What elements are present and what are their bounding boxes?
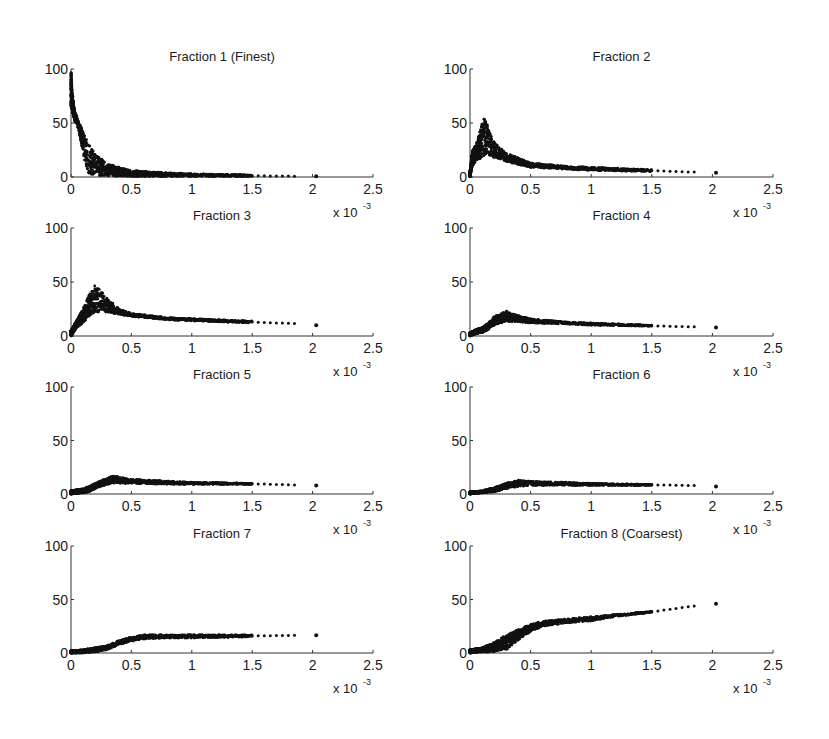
subplot-5: Fraction 505010000.511.522.5x 10-3: [45, 367, 383, 537]
subplot-grid: Fraction 1 (Finest)05010000.511.522.5x 1…: [0, 0, 829, 739]
x-multiplier-exponent: -3: [363, 677, 371, 687]
x-tick-label: 1: [188, 498, 196, 514]
x-tick-label: 0.5: [521, 657, 541, 673]
subplot-title: Fraction 8 (Coarsest): [560, 526, 682, 541]
x-tick-label: 2.5: [763, 340, 783, 356]
x-tick-label: 1: [188, 340, 196, 356]
x-tick-label: 0.5: [122, 340, 142, 356]
subplot-7: Fraction 705010000.511.522.5x 10-3: [45, 526, 383, 696]
x-tick-label: 0: [466, 498, 474, 514]
subplot-title: Fraction 1 (Finest): [169, 49, 274, 64]
y-tick-label: 50: [52, 433, 68, 449]
y-tick-label: 50: [451, 274, 467, 290]
x-tick-label: 0.5: [122, 181, 142, 197]
y-tick-label: 100: [444, 379, 468, 395]
x-multiplier-exponent: -3: [763, 360, 771, 370]
x-tick-label: 0.5: [521, 181, 541, 197]
subplot-title: Fraction 3: [193, 208, 251, 223]
y-tick-label: 50: [451, 592, 467, 608]
y-tick-label: 50: [52, 592, 68, 608]
y-tick-label: 100: [444, 538, 468, 554]
x-tick-label: 1.5: [642, 498, 662, 514]
x-tick-label: 0: [67, 657, 75, 673]
x-tick-label: 1: [188, 657, 196, 673]
x-tick-label: 1.5: [242, 340, 262, 356]
x-tick-label: 2: [709, 657, 717, 673]
x-tick-label: 0.5: [521, 498, 541, 514]
x-tick-label: 0.5: [122, 498, 142, 514]
x-multiplier-exponent: -3: [363, 518, 371, 528]
subplot-4: Fraction 405010000.511.522.5x 10-3: [444, 208, 783, 379]
subplot-title: Fraction 4: [593, 208, 651, 223]
x-tick-label: 2.5: [363, 181, 383, 197]
x-tick-label: 2.5: [763, 181, 783, 197]
x-multiplier-label: x 10: [333, 205, 358, 220]
subplot-title: Fraction 2: [593, 49, 651, 64]
scatter-points: [469, 118, 718, 178]
x-tick-label: 0: [466, 340, 474, 356]
x-tick-label: 2.5: [363, 498, 383, 514]
x-tick-label: 1: [587, 340, 595, 356]
x-tick-label: 0: [67, 498, 75, 514]
subplot-1: Fraction 1 (Finest)05010000.511.522.5x 1…: [45, 49, 383, 220]
subplot-title: Fraction 7: [193, 526, 251, 541]
x-tick-label: 2.5: [763, 657, 783, 673]
x-tick-label: 2.5: [363, 657, 383, 673]
x-tick-label: 2: [709, 498, 717, 514]
x-tick-label: 0: [67, 181, 75, 197]
x-tick-label: 2: [309, 181, 317, 197]
figure: Fraction 1 (Finest)05010000.511.522.5x 1…: [0, 0, 829, 739]
x-tick-label: 1.5: [642, 181, 662, 197]
x-multiplier-label: x 10: [333, 681, 358, 696]
x-tick-label: 1.5: [642, 657, 662, 673]
y-tick-label: 50: [451, 433, 467, 449]
y-tick-label: 50: [52, 274, 68, 290]
scatter-points: [469, 602, 718, 655]
x-tick-label: 1.5: [242, 181, 262, 197]
subplot-2: Fraction 205010000.511.522.5x 10-3: [444, 49, 783, 220]
x-tick-label: 0: [466, 657, 474, 673]
x-tick-label: 0.5: [122, 657, 142, 673]
x-tick-label: 0: [67, 340, 75, 356]
scatter-points: [70, 475, 319, 496]
y-tick-label: 100: [45, 220, 69, 236]
subplot-3: Fraction 305010000.511.522.5x 10-3: [45, 208, 383, 379]
x-tick-label: 1.5: [242, 498, 262, 514]
x-tick-label: 2: [309, 340, 317, 356]
x-tick-label: 1: [188, 181, 196, 197]
x-tick-label: 2: [309, 498, 317, 514]
scatter-points: [469, 310, 718, 337]
x-tick-label: 2.5: [763, 498, 783, 514]
x-multiplier-label: x 10: [733, 364, 758, 379]
x-multiplier-label: x 10: [733, 205, 758, 220]
y-tick-label: 50: [52, 115, 68, 131]
x-tick-label: 0: [466, 181, 474, 197]
x-multiplier-label: x 10: [733, 681, 758, 696]
y-tick-label: 100: [45, 61, 69, 77]
subplot-title: Fraction 6: [593, 367, 651, 382]
x-tick-label: 1.5: [642, 340, 662, 356]
scatter-points: [70, 71, 319, 178]
x-multiplier-label: x 10: [333, 522, 358, 537]
x-tick-label: 2: [309, 657, 317, 673]
x-multiplier-exponent: -3: [363, 360, 371, 370]
scatter-points: [70, 633, 319, 654]
subplot-title: Fraction 5: [193, 367, 251, 382]
x-tick-label: 2: [709, 181, 717, 197]
x-tick-label: 0.5: [521, 340, 541, 356]
x-tick-label: 2: [709, 340, 717, 356]
x-tick-label: 1: [587, 498, 595, 514]
x-multiplier-exponent: -3: [763, 201, 771, 211]
x-multiplier-exponent: -3: [763, 677, 771, 687]
scatter-points: [469, 479, 718, 496]
y-tick-label: 50: [451, 115, 467, 131]
x-tick-label: 1.5: [242, 657, 262, 673]
subplot-8: Fraction 8 (Coarsest)05010000.511.522.5x…: [444, 526, 783, 696]
x-multiplier-exponent: -3: [363, 201, 371, 211]
x-tick-label: 1: [587, 181, 595, 197]
x-multiplier-label: x 10: [733, 522, 758, 537]
x-tick-label: 1: [587, 657, 595, 673]
x-multiplier-exponent: -3: [763, 518, 771, 528]
y-tick-label: 100: [45, 379, 69, 395]
y-tick-label: 100: [444, 61, 468, 77]
